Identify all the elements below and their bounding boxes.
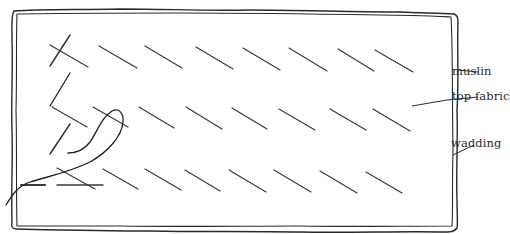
tacking-stitches-row-3	[57, 168, 402, 193]
tacking-stitches-row-2	[52, 107, 410, 131]
diagonal-back-stitches	[50, 35, 70, 154]
quilt-layers-outline	[12, 9, 458, 232]
wadding-inner-edge	[16, 13, 453, 226]
label-top-fabric: top fabric	[452, 89, 510, 103]
muslin-outer-edge	[12, 9, 458, 232]
tacking-stitches-row-1	[50, 45, 413, 72]
top-fabric-leader	[412, 100, 447, 106]
thread-loop	[6, 110, 123, 205]
label-muslin: muslin	[452, 64, 492, 78]
label-wadding: wadding	[451, 136, 502, 150]
